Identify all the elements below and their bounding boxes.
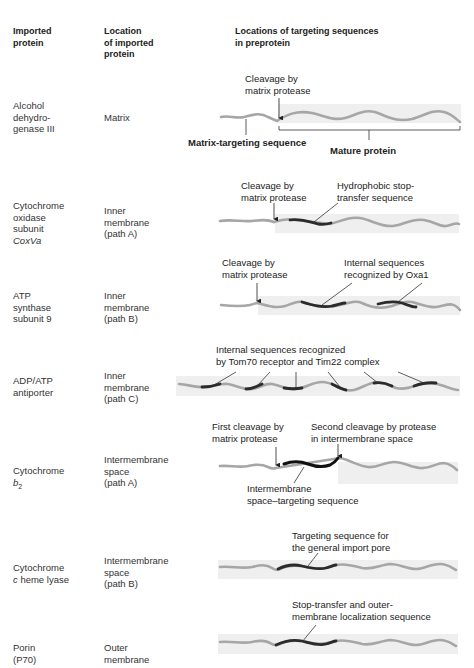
targeting-sequence-diagram — [0, 0, 474, 668]
band-row6 — [218, 560, 458, 579]
row3-preprotein — [221, 283, 460, 315]
row6-preprotein — [218, 553, 458, 579]
band-row2 — [275, 214, 459, 233]
mature-region-band — [278, 104, 461, 123]
row5-preprotein — [220, 444, 458, 484]
tom70-seq-3 — [284, 388, 302, 389]
band-row5 — [338, 462, 458, 484]
row1-preprotein — [221, 98, 461, 140]
ims-targeting-pointer-row5 — [294, 467, 304, 483]
row7-preprotein — [218, 625, 458, 654]
row2-preprotein — [220, 203, 459, 233]
mature-bracket — [279, 126, 460, 140]
row4-preprotein — [176, 372, 460, 396]
